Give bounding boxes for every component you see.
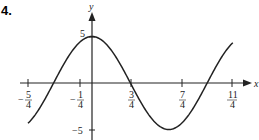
svg-text:−: −	[18, 94, 24, 105]
svg-text:4: 4	[129, 99, 134, 110]
y-axis-label: y	[88, 1, 94, 12]
x-tick-label-11-4: 11 4	[227, 89, 238, 110]
x-tick-label-3-4: 3 4	[128, 89, 135, 110]
x-tick-label-neg1-4: − 1 4	[70, 89, 84, 110]
svg-text:4: 4	[26, 99, 31, 110]
x-tick-label-7-4: 7 4	[179, 89, 186, 110]
x-tick-label-neg5-4: − 5 4	[18, 89, 32, 110]
x-axis-arrow-icon	[243, 80, 252, 87]
y-tick-label-neg5: −5	[72, 125, 83, 136]
svg-text:4: 4	[78, 99, 83, 110]
svg-text:4: 4	[230, 99, 235, 110]
x-axis-label: x	[253, 78, 259, 89]
svg-text:−: −	[70, 94, 76, 105]
y-tick-label-5: 5	[80, 28, 85, 39]
svg-text:4: 4	[180, 99, 185, 110]
graph: 4. x y 5 −5 − 5 4 − 1 4 3 4 7 4	[0, 0, 259, 140]
problem-number: 4.	[1, 3, 12, 18]
y-axis-arrow-icon	[89, 12, 96, 21]
